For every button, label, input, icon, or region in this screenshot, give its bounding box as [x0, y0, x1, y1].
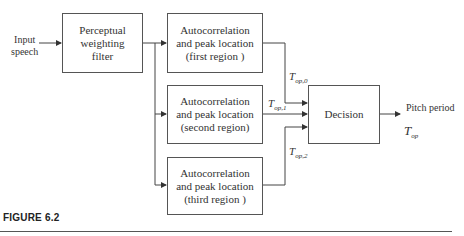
block-text: (second region): [181, 121, 250, 134]
decision-block: Decision: [308, 85, 380, 144]
block-text: Perceptual: [79, 24, 125, 37]
pitch-period-label: Pitch period: [406, 102, 455, 114]
caption-rule: [0, 231, 452, 232]
signal-t-op1: Top,1: [268, 97, 286, 112]
input-label-line2: speech: [11, 46, 38, 58]
block-text: Decision: [324, 108, 363, 121]
signal-t-op2: Top,2: [289, 145, 307, 160]
autocorrelation-third-region-block: Autocorrelation and peak location (third…: [167, 157, 263, 215]
input-label-line1: Input: [11, 34, 38, 46]
figure-caption: FIGURE 6.2: [3, 212, 59, 223]
block-text: and peak location: [176, 37, 254, 50]
block-text: (first region ): [186, 50, 245, 63]
autocorrelation-second-region-block: Autocorrelation and peak location (secon…: [167, 85, 263, 144]
autocorrelation-first-region-block: Autocorrelation and peak location (first…: [167, 13, 263, 73]
block-text: (third region ): [184, 193, 246, 206]
block-text: Autocorrelation: [180, 95, 250, 108]
block-text: and peak location: [176, 180, 254, 193]
block-text: Autocorrelation: [180, 24, 250, 37]
block-text: Autocorrelation: [180, 167, 250, 180]
signal-t-op0: Top,0: [289, 70, 307, 85]
block-text: filter: [92, 50, 113, 63]
perceptual-weighting-filter-block: Perceptual weighting filter: [62, 13, 143, 73]
block-text: and peak location: [176, 108, 254, 121]
signal-t-op-output: Top: [404, 123, 418, 140]
input-speech-label: Input speech: [11, 34, 38, 58]
block-text: weighting: [81, 37, 125, 50]
